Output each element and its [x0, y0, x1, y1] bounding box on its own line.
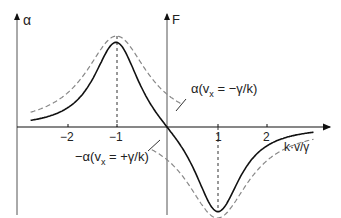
leader-top [176, 99, 186, 111]
tick-minus2: −2 [60, 131, 74, 143]
leader-bottom [148, 140, 160, 151]
tick-plus2: 2 [263, 131, 270, 143]
tick-plus1: 1 [215, 131, 222, 143]
x-axis-label: k·v/γ [284, 141, 309, 153]
alpha-axis-label: α [23, 13, 31, 27]
force-diagram [0, 0, 341, 218]
force-axis-label: F [172, 13, 180, 26]
alpha-curve-dashed [31, 36, 183, 112]
annotation-alpha: α(vx = −γ/k) [191, 82, 257, 99]
tick-minus1: −1 [109, 131, 123, 143]
annotation-neg-alpha: −α(vx = +γ/k) [75, 150, 149, 167]
